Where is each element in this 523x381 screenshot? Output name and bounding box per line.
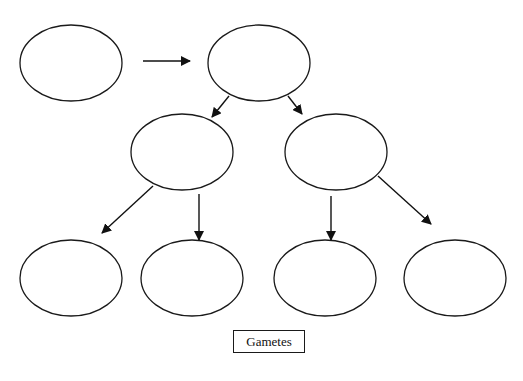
arrow-cell2-to-cell4 [288, 96, 302, 114]
cell-2-ellipse [208, 25, 310, 101]
arrow-cell3-to-gamete1 [102, 186, 153, 233]
cell-1-ellipse [20, 25, 122, 101]
arrow-cell4-to-gamete4 [378, 176, 431, 224]
gametes-label-text: Gametes [246, 334, 291, 350]
gamete-4-ellipse [404, 240, 506, 316]
gamete-3-ellipse [274, 240, 376, 316]
gamete-1-ellipse [20, 240, 122, 316]
arrow-cell2-to-cell3 [212, 96, 229, 117]
cell-3-ellipse [131, 114, 233, 190]
gametes-label: Gametes [233, 330, 305, 353]
cell-4-ellipse [285, 114, 387, 190]
gamete-2-ellipse [141, 240, 243, 316]
diagram-canvas [0, 0, 523, 381]
